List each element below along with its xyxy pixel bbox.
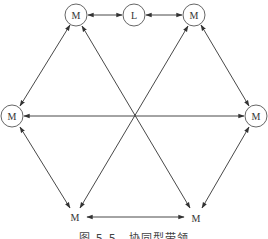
edge-mtopright-mbottomleft (80, 26, 188, 208)
edge-mright-mbottomright (202, 127, 249, 208)
edge-mleft-mbottomleft (20, 127, 70, 208)
node-m-right: M (252, 111, 261, 122)
node-m-bottom-left: M (71, 212, 80, 223)
figure-caption: 图 5-5 协同型带领 (0, 229, 268, 239)
edge-mtopright-mright (201, 25, 249, 106)
edge-mtopleft-mbottomright (82, 26, 190, 208)
node-m-left: M (8, 111, 17, 122)
node-m-top-right: M (190, 10, 199, 21)
node-m-bottom-right: M (192, 213, 201, 224)
node-l-top: L (131, 10, 137, 21)
network-diagram: M L M M M M M (0, 0, 268, 239)
edge-mtopleft-mleft (20, 25, 70, 106)
node-m-top-left: M (72, 10, 81, 21)
